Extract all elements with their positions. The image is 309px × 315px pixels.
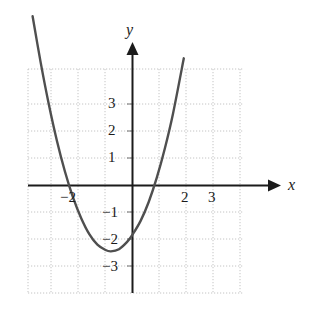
graph-figure: 3 2 1 −1 −2 −3 −2 2 3 y x: [0, 0, 309, 315]
x-tick-label: −2: [60, 190, 76, 205]
y-tick-label: 2: [108, 123, 116, 138]
y-tick-label: 1: [108, 150, 116, 165]
y-tick-label: −1: [102, 205, 118, 220]
x-tick-label: 3: [208, 190, 216, 205]
x-axis-label: x: [288, 177, 295, 193]
grid-horizontal-lines: [28, 69, 243, 293]
coordinate-plane: [0, 0, 309, 315]
x-tick-label: 2: [181, 190, 189, 205]
y-axis: [127, 42, 139, 293]
y-tick-label: −3: [102, 259, 118, 274]
grid-vertical-lines: [28, 69, 240, 293]
y-axis-label: y: [126, 22, 133, 38]
y-tick-label: −2: [102, 232, 118, 247]
y-tick-label: 3: [108, 96, 116, 111]
